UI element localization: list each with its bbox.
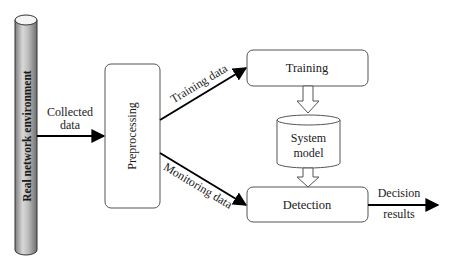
training-node: Training <box>247 50 368 86</box>
monitoring-data-arrow <box>160 153 246 205</box>
model-top <box>277 115 340 125</box>
monitoring-data-label: Monitoring data <box>161 160 235 212</box>
edge-monitoring-data: Monitoring data <box>160 153 246 212</box>
preprocessing-node: Preprocessing <box>105 64 160 208</box>
environment-node: Real network environment <box>15 15 37 255</box>
decision-label-2: results <box>383 207 415 221</box>
preprocessing-label: Preprocessing <box>125 102 139 169</box>
system-model-label-2: model <box>294 146 325 160</box>
detection-node: Detection <box>247 187 368 222</box>
hollow-arrow-down-icon <box>297 86 319 113</box>
training-label: Training <box>286 61 329 75</box>
system-model-label-1: System <box>291 131 327 145</box>
hollow-arrow-down-icon <box>297 168 319 187</box>
edge-training-data: Training data <box>160 61 246 120</box>
collected-label-2: data <box>60 118 81 132</box>
detection-label: Detection <box>283 198 332 212</box>
collected-label-1: Collected <box>47 105 93 119</box>
architecture-diagram: Real network environment Collected data … <box>0 0 453 270</box>
edge-collected-data: Collected data <box>37 105 104 136</box>
pipe-top <box>15 15 37 25</box>
edge-decision-results: Decision results <box>368 186 438 221</box>
decision-label-1: Decision <box>378 186 421 200</box>
system-model-node: System model <box>277 115 340 168</box>
environment-label: Real network environment <box>21 70 33 202</box>
